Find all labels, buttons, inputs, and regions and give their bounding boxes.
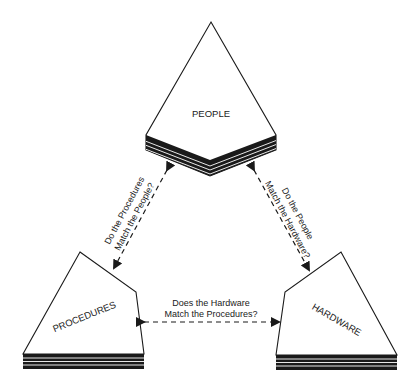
people-label: PEOPLE xyxy=(192,108,230,119)
node-hardware: HARDWARE xyxy=(276,252,397,370)
hardware-striped-base xyxy=(276,355,397,370)
edge-hardware-procedures-line1: Does the Hardware xyxy=(172,298,250,308)
node-procedures: PROCEDURES xyxy=(23,252,144,369)
procedures-striped-base xyxy=(23,354,144,369)
edge-procedures-people: Do the Procedures Match the People? xyxy=(102,170,167,268)
node-people: PEOPLE xyxy=(140,22,280,178)
edge-hardware-procedures-line2: Match the Procedures? xyxy=(164,309,257,319)
edge-hardware-procedures: Does the Hardware Match the Procedures? xyxy=(144,298,279,322)
diagram-canvas: PEOPLE PROCEDURES HARDWARE Do the Proced… xyxy=(0,0,416,391)
edge-people-hardware: Do the People Match the Hardware? xyxy=(254,170,315,270)
